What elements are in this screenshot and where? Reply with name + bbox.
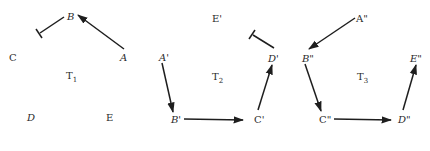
edge-d-prime-blocked [253,35,274,48]
edge-c-prime-to-d-prime [258,65,272,110]
node-e: E [106,112,113,123]
edge-c-to-d-double-prime [334,119,391,120]
node-d: D [26,112,35,123]
panel-title-t2: T2 [212,71,223,85]
node-c-prime: C' [254,114,264,125]
node-c: C [9,52,17,63]
diagram-canvas: B A C D E T1 E' A' D' B' C' T2 A" B" E" … [0,0,430,151]
panel-t3: A" B" E" C" D" T3 [301,13,422,125]
edge-a-to-b [78,15,124,49]
node-a: A [119,52,127,63]
panel-title-t3: T3 [357,71,368,85]
edge-b-blocked [40,17,64,33]
node-e-double-prime: E" [409,53,422,64]
node-b-prime: B' [170,114,181,125]
blocked-bar-icon [36,29,42,38]
panel-title-t1: T1 [66,70,77,84]
edge-b-prime-to-c-prime [184,119,243,120]
node-b-double-prime: B" [301,53,314,64]
node-c-double-prime: C" [319,114,331,125]
edge-a-prime-to-b-prime [162,63,173,112]
node-e-prime: E' [212,13,222,24]
node-b: B [66,11,74,22]
blocked-bar-icon [249,30,255,39]
node-a-double-prime: A" [355,13,368,24]
edge-b-to-c-double-prime [305,64,321,111]
node-a-prime: A' [158,52,169,63]
node-d-double-prime: D" [397,114,411,125]
panel-t2: E' A' D' B' C' T2 [158,13,279,125]
edge-d-to-e-double-prime [403,65,416,110]
edge-a-to-b-double-prime [309,18,355,49]
node-d-prime: D' [267,53,279,64]
panel-t1: B A C D E T1 [9,11,127,123]
